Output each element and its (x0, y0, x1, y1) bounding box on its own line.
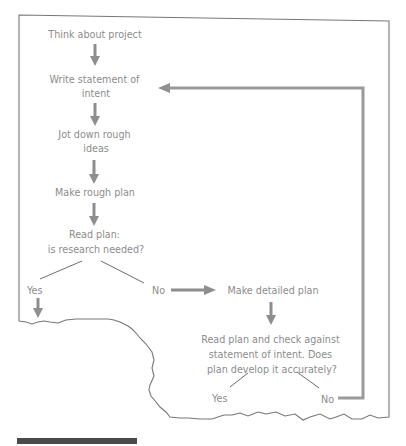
node-make-rough-plan: Make rough plan (55, 187, 135, 198)
arrow-detailed-plan-to-check (266, 302, 276, 325)
node-think-about-project: Think about project (47, 29, 142, 40)
arrow-research-yes-down (33, 298, 43, 318)
node-check-plan: Read plan and check against statement of… (201, 334, 343, 375)
branch-line-research-yes (40, 261, 82, 279)
arrow-think-to-write (90, 44, 100, 66)
arrow-research-no-to-detailed-plan (171, 285, 216, 295)
branch-line-check-yes (230, 373, 248, 387)
arrow-jot-to-rough-plan (89, 160, 99, 184)
branch-label-check-no: No (321, 394, 334, 405)
flowchart-diagram: Think about project Write statement of i… (0, 0, 406, 446)
branch-label-research-no: No (152, 285, 165, 296)
node-make-detailed-plan: Make detailed plan (227, 285, 318, 296)
branch-line-research-no (101, 261, 144, 283)
node-jot-down-ideas: Jot down rough ideas (57, 129, 133, 154)
arrow-rough-plan-to-read-plan (89, 203, 99, 226)
decorative-bar (17, 438, 137, 444)
node-write-statement: Write statement of intent (49, 74, 142, 99)
arrow-write-to-jot (90, 103, 100, 126)
node-read-plan-research: Read plan: is research needed? (48, 229, 144, 255)
branch-label-research-yes: Yes (26, 285, 43, 296)
branch-label-check-yes: Yes (211, 393, 228, 404)
